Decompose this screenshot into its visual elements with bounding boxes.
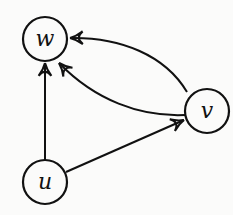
node-u: u [23,160,67,204]
node-w: w [23,17,67,61]
node-label-u: u [38,169,52,194]
edge-v-w-upper [70,38,187,92]
edge-v-w-lower [59,63,185,115]
node-v: v [185,89,229,133]
node-label-v: v [201,98,214,123]
edge-u-v [66,120,184,172]
graph-canvas: w v u [0,0,233,215]
node-label-w: w [36,26,55,51]
